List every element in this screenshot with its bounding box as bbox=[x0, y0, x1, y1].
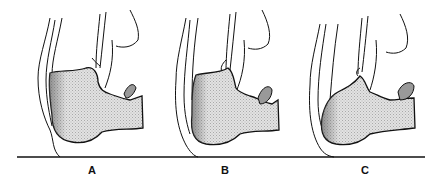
panel-label-b: B bbox=[215, 164, 235, 176]
panel-label-a: A bbox=[82, 164, 102, 176]
panel-b-drawing bbox=[175, 10, 279, 157]
panel-label-c: C bbox=[355, 164, 375, 176]
calcaneus-diagram bbox=[0, 0, 438, 185]
panel-c-drawing bbox=[309, 14, 415, 157]
panel-a-drawing bbox=[38, 10, 143, 157]
